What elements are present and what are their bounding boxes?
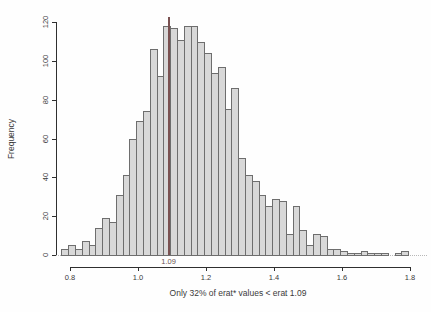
y-axis-title: Frequency xyxy=(6,119,16,159)
y-tick-label: 60 xyxy=(41,134,50,142)
x-tick xyxy=(138,267,139,271)
x-tick-label: 1.8 xyxy=(405,273,415,282)
y-tick xyxy=(52,61,56,62)
x-tick-label: 1.2 xyxy=(201,273,211,282)
x-tick xyxy=(274,267,275,271)
x-tick xyxy=(206,267,207,271)
histogram-figure: Frequency 020406080100120 0.81.01.21.41.… xyxy=(0,0,431,312)
y-tick xyxy=(52,100,56,101)
x-tick-label: 1.4 xyxy=(269,273,279,282)
x-tick-label: 0.8 xyxy=(65,273,75,282)
y-tick-label: 80 xyxy=(41,96,50,104)
x-tick xyxy=(342,267,343,271)
y-tick-label: 120 xyxy=(41,16,50,29)
x-tick xyxy=(70,267,71,271)
y-tick xyxy=(52,139,56,140)
x-tick xyxy=(410,267,411,271)
y-tick-label: 40 xyxy=(41,173,50,181)
marker-value-label: 1.09 xyxy=(161,257,176,266)
marker-line-1-09 xyxy=(168,17,170,255)
y-tick xyxy=(52,177,56,178)
y-tick-label: 100 xyxy=(41,55,50,68)
y-axis-line xyxy=(56,22,57,255)
y-tick-label: 0 xyxy=(41,253,50,257)
histogram-bar xyxy=(401,251,409,256)
histogram-bar xyxy=(381,253,389,256)
x-tick-label: 1.0 xyxy=(133,273,143,282)
y-tick xyxy=(52,22,56,23)
x-axis-line xyxy=(70,267,410,268)
y-tick xyxy=(52,216,56,217)
x-tick-label: 1.6 xyxy=(337,273,347,282)
y-tick-label: 20 xyxy=(41,212,50,220)
x-axis-caption: Only 32% of erat* values < erat 1.09 xyxy=(170,288,307,298)
